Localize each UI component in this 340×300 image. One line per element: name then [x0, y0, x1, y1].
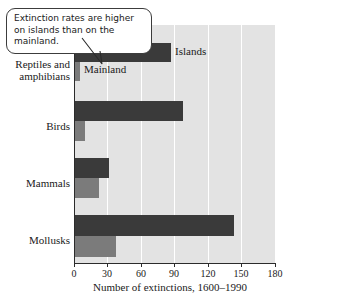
tick-mark-120	[208, 263, 209, 267]
tick-label-0: 0	[59, 268, 89, 279]
annotation-callout: Extinction rates are higher on islands t…	[6, 8, 152, 54]
x-axis-line	[74, 263, 276, 264]
category-label-birds: Birds	[0, 120, 70, 132]
tick-mark-180	[275, 263, 276, 267]
extinctions-bar-chart: Islands Mainland 0 30 60 90 120 150 180 …	[0, 0, 340, 300]
tick-mark-30	[107, 263, 108, 267]
tick-mark-150	[241, 263, 242, 267]
tick-mark-0	[74, 263, 75, 267]
bar-mollusks-islands	[74, 215, 234, 236]
category-label-reptiles-line1: Reptiles and	[0, 58, 70, 70]
bar-mollusks-mainland	[74, 236, 116, 257]
series-label-mainland: Mainland	[84, 63, 126, 75]
category-label-mammals: Mammals	[0, 177, 70, 189]
bar-birds-islands	[74, 101, 183, 121]
category-label-mollusks: Mollusks	[0, 234, 70, 246]
tick-label-120: 120	[193, 268, 223, 279]
tick-label-180: 180	[260, 268, 290, 279]
y-axis-line	[74, 25, 75, 264]
gridline-150	[241, 25, 242, 263]
bar-birds-mainland	[74, 121, 85, 141]
tick-label-150: 150	[226, 268, 256, 279]
bar-mammals-mainland	[74, 178, 99, 198]
category-label-reptiles-line2: amphibians	[0, 70, 70, 82]
series-label-islands: Islands	[175, 45, 206, 57]
x-axis-title: Number of extinctions, 1600–1990	[0, 281, 340, 293]
tick-label-60: 60	[126, 268, 156, 279]
tick-label-90: 90	[159, 268, 189, 279]
tick-mark-90	[174, 263, 175, 267]
tick-label-30: 30	[92, 268, 122, 279]
bar-mammals-islands	[74, 158, 109, 178]
plot-area: Islands Mainland	[74, 25, 275, 263]
tick-mark-60	[141, 263, 142, 267]
